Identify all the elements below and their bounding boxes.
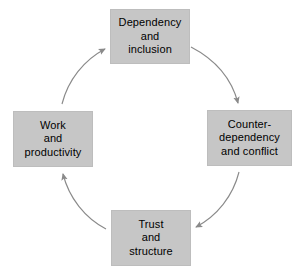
node-text-line: Counter- (228, 118, 272, 132)
node-text-line: Trust (138, 218, 163, 232)
node-text-line: inclusion (128, 43, 172, 57)
node-text-line: and (141, 30, 160, 44)
node-counter-dependency-and-conflict: Counter- dependency and conflict (207, 110, 292, 166)
node-text-line: Dependency (119, 16, 182, 30)
node-text-line: Work (40, 119, 66, 133)
node-trust-and-structure: Trust and structure (111, 210, 191, 266)
node-text-line: and (142, 231, 161, 245)
arrow-left-to-top (62, 49, 105, 104)
node-text-line: structure (129, 245, 173, 259)
node-dependency-and-inclusion: Dependency and inclusion (110, 9, 190, 64)
arrow-right-to-bottom (196, 172, 239, 227)
node-text-line: and (44, 132, 63, 146)
node-text-line: productivity (25, 146, 82, 160)
arrow-top-to-right (191, 47, 238, 103)
arrow-bottom-to-left (63, 174, 106, 229)
node-work-and-productivity: Work and productivity (13, 111, 93, 167)
node-text-line: and conflict (221, 145, 278, 159)
cycle-diagram: Dependency and inclusion Counter- depend… (0, 0, 299, 274)
node-text-line: dependency (219, 131, 280, 145)
